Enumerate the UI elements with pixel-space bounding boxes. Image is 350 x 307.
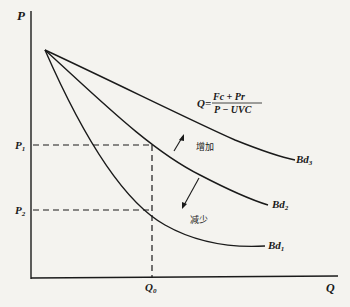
break-even-diagram: P Q P1 P2 Q0 Q= Fc + Pr P − UVC Bd3 Bd2 … (0, 0, 350, 307)
x-axis-label: Q (326, 281, 335, 295)
increase-label: 增加 (196, 141, 214, 152)
curve-bd3 (45, 50, 295, 160)
p1-label: P1 (15, 139, 25, 153)
formula-lhs: Q= (197, 97, 211, 109)
decrease-arrow (183, 178, 199, 207)
decrease-label: 减少 (190, 214, 208, 225)
formula-numerator: Fc + Pr (212, 91, 245, 102)
p2-label: P2 (15, 204, 26, 218)
bd3-label: Bd3 (295, 153, 313, 167)
formula-denominator: P − UVC (214, 104, 252, 115)
formula: Q= Fc + Pr P − UVC (197, 91, 262, 115)
y-axis-label: P (17, 8, 26, 23)
x-axis (31, 276, 338, 278)
bd2-label: Bd2 (271, 198, 289, 212)
curve-bd2 (45, 50, 268, 205)
bd1-label: Bd1 (267, 239, 284, 253)
diagram-svg: P Q P1 P2 Q0 Q= Fc + Pr P − UVC Bd3 Bd2 … (0, 0, 350, 307)
decrease-arrowhead (182, 202, 187, 209)
increase-arrowhead (179, 134, 184, 141)
q0-label: Q0 (145, 281, 157, 295)
